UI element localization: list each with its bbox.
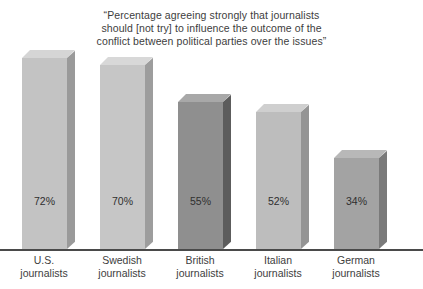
bar-value-label: 52%	[256, 195, 301, 207]
category-label: British journalists	[162, 254, 238, 280]
bar-side-face	[145, 58, 153, 249]
bar-value-label: 70%	[100, 195, 145, 207]
chart-root: “Percentage agreeing strongly that journ…	[0, 0, 423, 289]
bar-value-label: 34%	[334, 195, 379, 207]
bar-side-face	[67, 51, 75, 249]
x-axis-line	[0, 249, 423, 251]
bar-side-face	[379, 151, 387, 249]
bar-front-face	[22, 58, 67, 249]
bar: 55%	[178, 102, 223, 249]
category-label: U.S. journalists	[6, 254, 82, 280]
bar-side-face	[223, 95, 231, 249]
plot-area: 72%70%55%52%34%	[0, 0, 423, 250]
category-label: Swedish journalists	[84, 254, 160, 280]
bar-front-face	[100, 65, 145, 249]
category-label: German journalists	[318, 254, 394, 280]
bar: 52%	[256, 112, 301, 249]
bar-front-face	[256, 112, 301, 249]
bar-side-face	[301, 105, 309, 249]
bar-value-label: 55%	[178, 195, 223, 207]
bar-front-face	[178, 102, 223, 249]
bar: 34%	[334, 158, 379, 249]
bar: 72%	[22, 58, 67, 249]
bar-value-label: 72%	[22, 195, 67, 207]
category-label: Italian journalists	[240, 254, 316, 280]
bar: 70%	[100, 65, 145, 249]
